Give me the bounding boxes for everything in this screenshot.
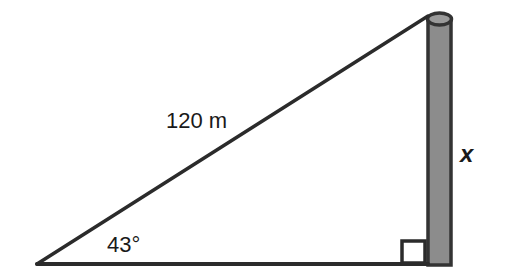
angle-label: 43°	[107, 232, 140, 258]
pole-top	[428, 13, 452, 25]
unknown-side-label: x	[460, 140, 473, 168]
pole	[428, 19, 451, 265]
triangle-diagram	[0, 0, 509, 279]
hypotenuse-line	[37, 16, 428, 264]
hypotenuse-label: 120 m	[166, 108, 227, 134]
right-angle-marker	[402, 241, 425, 263]
